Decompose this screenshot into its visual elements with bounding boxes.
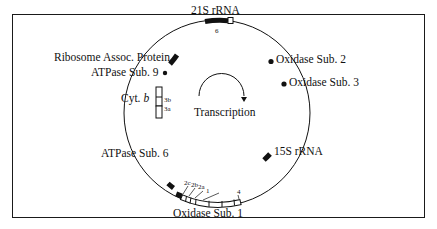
mitochondrial-genome-map: 21S rRNA 6 Oxidase Sub. 2 Oxidase Sub. 3… — [0, 0, 437, 229]
gene-oxidase-sub-2: Oxidase Sub. 2 — [268, 53, 346, 65]
gene-oxidase-sub-1: 2c 2b 2a 1 4 Oxidase Sub. 1 — [173, 179, 243, 219]
gene-ribosome-assoc-protein: Ribosome Assoc. Protein — [54, 51, 177, 64]
label-15s-rrna: 15S rRNA — [274, 145, 324, 157]
label-atpase-sub-6-visible: ATPase Sub. 6 — [101, 147, 169, 159]
label-transcription: Transcription — [194, 106, 256, 119]
gene-oxidase-sub-3: Oxidase Sub. 3 — [281, 76, 359, 88]
label-21s-exon-6: 6 — [215, 27, 219, 35]
gene-atpase-sub-9: ATPase Sub. 9 — [91, 66, 167, 78]
label-ox1-exon-4: 4 — [237, 188, 241, 196]
gene-atpase-sub-6: ATPase Sub. 6 ATPase Sub. 6 — [101, 147, 174, 188]
label-ribosome-assoc-protein: Ribosome Assoc. Protein — [54, 51, 170, 63]
gene-cyt-b: 3b 3a Cyt. b — [121, 87, 172, 118]
label-oxidase-sub-3: Oxidase Sub. 3 — [289, 76, 359, 88]
gene-21s-rrna: 21S rRNA 6 — [191, 4, 241, 35]
label-cytb-exon-3b: 3b — [164, 96, 172, 104]
arrowhead-icon — [241, 97, 247, 102]
label-cytb-exon-3a: 3a — [164, 105, 172, 113]
gene-15s-rrna: 15S rRNA — [264, 145, 324, 160]
label-oxidase-sub-2: Oxidase Sub. 2 — [276, 53, 346, 65]
label-cyt-b: Cyt. b — [121, 92, 149, 105]
label-oxidase-sub-1: Oxidase Sub. 1 — [173, 207, 243, 219]
label-ox1-exon-1: 1 — [206, 187, 210, 195]
label-atpase-sub-9: ATPase Sub. 9 — [91, 66, 159, 78]
label-ox1-exon-2c: 2c — [184, 179, 191, 187]
label-21s-rrna: 21S rRNA — [191, 4, 241, 16]
transcription-arrow: Transcription — [194, 74, 256, 119]
label-ox1-exon-2a: 2a — [198, 183, 206, 191]
